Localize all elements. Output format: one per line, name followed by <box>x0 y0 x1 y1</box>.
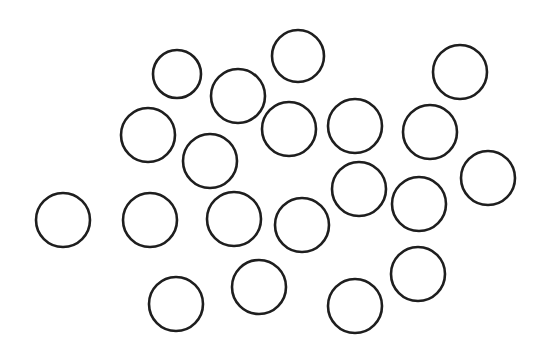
circle-outline <box>211 69 265 123</box>
circle-outline <box>433 45 487 99</box>
circle-outline <box>232 260 286 314</box>
circle-outline <box>328 279 382 333</box>
circle-outline <box>121 108 175 162</box>
circle-outline <box>391 247 445 301</box>
circle-outline <box>328 99 382 153</box>
circle-outline <box>262 102 316 156</box>
circle-outline <box>392 177 446 231</box>
circle-outline <box>149 277 203 331</box>
circle-outline <box>36 193 90 247</box>
circle-outline <box>461 151 515 205</box>
circle-outline <box>183 134 237 188</box>
circle-outline <box>272 30 324 82</box>
circle-outline <box>153 50 201 98</box>
circle-outline <box>332 162 386 216</box>
circles-drawing <box>0 0 544 356</box>
circle-outline <box>403 105 457 159</box>
circles-canvas <box>0 0 544 356</box>
circle-outline <box>123 193 177 247</box>
circle-outline <box>275 198 329 252</box>
circle-outline <box>207 192 261 246</box>
